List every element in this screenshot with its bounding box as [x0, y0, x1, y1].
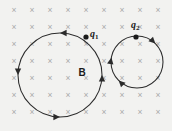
field-into-page-cross: × — [120, 22, 125, 32]
field-into-page-cross: × — [84, 22, 89, 32]
field-into-page-cross: × — [84, 90, 89, 100]
field-into-page-cross: × — [66, 5, 71, 15]
magnetic-field-label-B: B — [78, 67, 85, 78]
charge-q2-dot — [133, 34, 138, 39]
field-into-page-cross: × — [30, 107, 35, 117]
field-into-page-cross: × — [102, 107, 107, 117]
field-into-page-cross: × — [12, 56, 17, 66]
field-into-page-cross: × — [102, 22, 107, 32]
field-into-page-cross: × — [156, 5, 161, 15]
field-into-page-cross: × — [48, 5, 53, 15]
field-into-page-cross: × — [156, 107, 161, 117]
diagram-canvas: ××××××××××××××××××××××××××××××××××××××××… — [0, 0, 172, 131]
field-into-page-cross: × — [12, 39, 17, 49]
field-into-page-cross: × — [48, 22, 53, 32]
field-into-page-cross: × — [12, 73, 17, 83]
field-into-page-cross: × — [30, 56, 35, 66]
field-into-page-cross: × — [156, 56, 161, 66]
field-into-page-cross: × — [30, 90, 35, 100]
field-into-page-cross: × — [138, 107, 143, 117]
charge-q1-dot — [83, 34, 88, 39]
field-into-page-cross: × — [66, 90, 71, 100]
field-into-page-cross: × — [138, 90, 143, 100]
field-into-page-cross: × — [66, 56, 71, 66]
field-into-page-cross: × — [12, 90, 17, 100]
field-into-page-cross: × — [120, 56, 125, 66]
field-into-page-cross: × — [102, 39, 107, 49]
field-into-page-cross: × — [66, 39, 71, 49]
field-into-page-cross: × — [30, 73, 35, 83]
field-into-page-cross: × — [102, 5, 107, 15]
physics-field-diagram: ××××××××××××××××××××××××××××××××××××××××… — [0, 0, 172, 131]
field-into-page-cross: × — [66, 73, 71, 83]
field-into-page-cross: × — [138, 5, 143, 15]
field-into-page-cross: × — [138, 39, 143, 49]
field-into-page-cross: × — [102, 56, 107, 66]
field-into-page-cross: × — [48, 73, 53, 83]
field-into-page-cross: × — [48, 90, 53, 100]
field-into-page-cross: × — [102, 90, 107, 100]
field-into-page-cross: × — [120, 5, 125, 15]
field-into-page-cross: × — [12, 107, 17, 117]
field-into-page-cross: × — [156, 22, 161, 32]
field-into-page-cross: × — [120, 107, 125, 117]
field-into-page-cross: × — [120, 90, 125, 100]
field-into-page-cross: × — [12, 22, 17, 32]
field-into-page-cross: × — [30, 5, 35, 15]
field-into-page-cross: × — [138, 56, 143, 66]
field-into-page-cross: × — [48, 56, 53, 66]
field-into-page-cross: × — [30, 22, 35, 32]
field-into-page-cross: × — [156, 90, 161, 100]
field-into-page-cross: × — [48, 39, 53, 49]
field-into-page-cross: × — [12, 5, 17, 15]
field-into-page-cross: × — [84, 5, 89, 15]
field-into-page-cross: × — [84, 56, 89, 66]
field-into-page-cross: × — [138, 73, 143, 83]
